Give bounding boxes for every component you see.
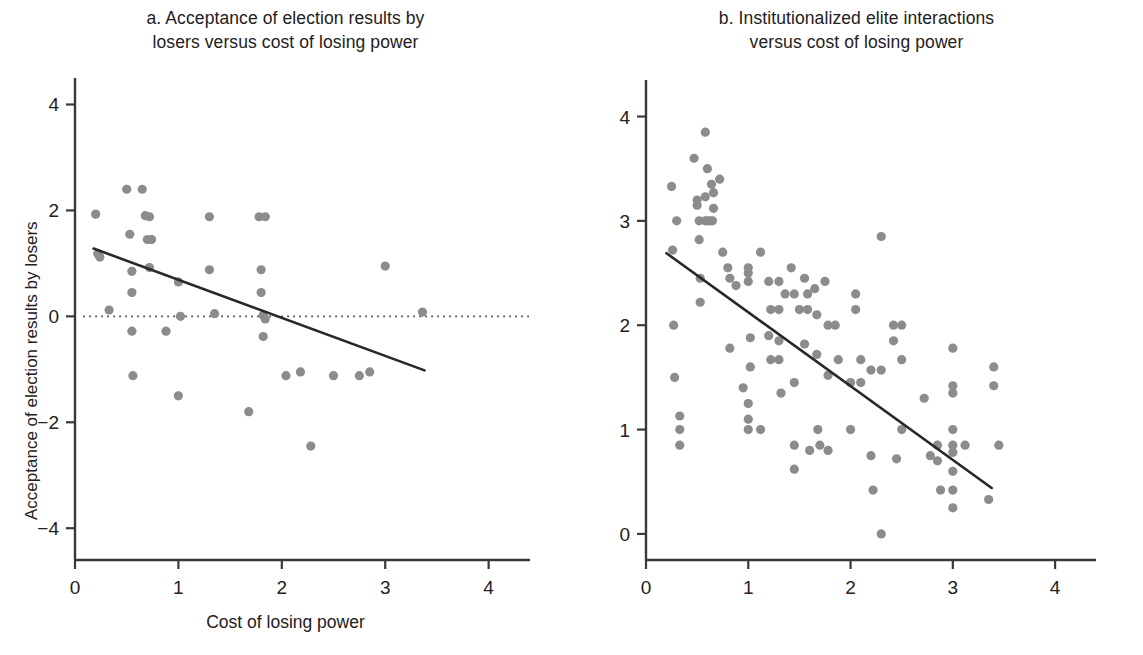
panel-b: b. Institutionalized elite interactions …	[571, 0, 1142, 655]
scatter-point	[715, 175, 724, 184]
panel-a-x-axis-label: Cost of losing power	[0, 612, 571, 633]
scatter-point	[948, 344, 957, 353]
scatter-point	[701, 128, 710, 137]
scatter-point	[281, 371, 290, 380]
scatter-point	[675, 441, 684, 450]
scatter-point	[820, 277, 829, 286]
scatter-point	[933, 456, 942, 465]
x-tick-label: 2	[277, 577, 288, 598]
y-tick-label: 4	[48, 94, 59, 115]
scatter-point	[790, 378, 799, 387]
scatter-point	[689, 154, 698, 163]
scatter-point	[261, 314, 270, 323]
scatter-point	[764, 331, 773, 340]
x-tick-label: 4	[1050, 577, 1061, 598]
scatter-point	[744, 415, 753, 424]
scatter-point	[892, 454, 901, 463]
scatter-point	[790, 289, 799, 298]
y-tick-label: 1	[619, 420, 630, 441]
scatter-point	[355, 371, 364, 380]
scatter-point	[161, 327, 170, 336]
scatter-point	[696, 298, 705, 307]
scatter-point	[739, 383, 748, 392]
scatter-point	[703, 164, 712, 173]
scatter-point	[856, 378, 865, 387]
y-tick-label: 3	[619, 211, 630, 232]
x-tick-label: 4	[483, 577, 494, 598]
panel-b-plot: 0123401234	[571, 0, 1142, 655]
scatter-point	[718, 248, 727, 257]
scatter-point	[790, 441, 799, 450]
scatter-point	[668, 245, 677, 254]
scatter-point	[846, 425, 855, 434]
scatter-point	[125, 230, 134, 239]
scatter-point	[897, 321, 906, 330]
scatter-point	[948, 503, 957, 512]
scatter-point	[813, 425, 822, 434]
scatter-point	[856, 355, 865, 364]
scatter-point	[672, 216, 681, 225]
scatter-point	[948, 425, 957, 434]
scatter-point	[756, 248, 765, 257]
panel-a-plot: −4−202401234	[0, 0, 571, 655]
scatter-point	[708, 216, 717, 225]
scatter-point	[823, 446, 832, 455]
scatter-point	[989, 362, 998, 371]
scatter-point	[675, 411, 684, 420]
scatter-point	[701, 192, 710, 201]
scatter-point	[948, 485, 957, 494]
scatter-point	[746, 362, 755, 371]
scatter-point	[127, 288, 136, 297]
scatter-point	[800, 274, 809, 283]
scatter-point	[774, 355, 783, 364]
scatter-point	[795, 305, 804, 314]
scatter-point	[127, 327, 136, 336]
x-tick-label: 1	[173, 577, 184, 598]
scatter-point	[122, 185, 131, 194]
scatter-point	[776, 388, 785, 397]
scatter-point	[128, 371, 137, 380]
scatter-point	[257, 288, 266, 297]
scatter-point	[936, 485, 945, 494]
x-tick-label: 2	[845, 577, 856, 598]
scatter-point	[174, 391, 183, 400]
x-tick-label: 1	[743, 577, 754, 598]
scatter-point	[210, 309, 219, 318]
scatter-point	[877, 529, 886, 538]
scatter-point	[669, 321, 678, 330]
scatter-point	[877, 232, 886, 241]
scatter-point	[147, 235, 156, 244]
scatter-point	[948, 388, 957, 397]
scatter-point	[723, 263, 732, 272]
scatter-point	[815, 441, 824, 450]
scatter-point	[780, 289, 789, 298]
scatter-point	[365, 367, 374, 376]
scatter-point	[205, 265, 214, 274]
scatter-point	[756, 425, 765, 434]
scatter-point	[744, 425, 753, 434]
scatter-point	[675, 425, 684, 434]
scatter-point	[725, 274, 734, 283]
scatter-point	[800, 339, 809, 348]
scatter-point	[803, 305, 812, 314]
scatter-point	[812, 350, 821, 359]
scatter-point	[667, 182, 676, 191]
scatter-point	[695, 235, 704, 244]
scatter-point	[866, 451, 875, 460]
scatter-point	[831, 321, 840, 330]
y-tick-label: 2	[48, 200, 59, 221]
scatter-point	[381, 261, 390, 270]
scatter-point	[145, 212, 154, 221]
scatter-point	[851, 289, 860, 298]
scatter-point	[764, 277, 773, 286]
scatter-point	[259, 332, 268, 341]
scatter-point	[744, 277, 753, 286]
scatter-point	[766, 305, 775, 314]
scatter-point	[176, 312, 185, 321]
scatter-point	[329, 371, 338, 380]
scatter-point	[994, 441, 1003, 450]
scatter-point	[948, 448, 957, 457]
scatter-point	[810, 284, 819, 293]
scatter-point	[960, 441, 969, 450]
scatter-point	[920, 394, 929, 403]
